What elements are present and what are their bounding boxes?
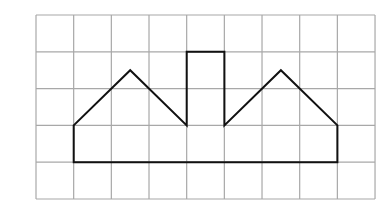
square-grid (36, 15, 375, 199)
polygon-shape (74, 52, 338, 162)
grid-diagram (0, 0, 390, 215)
